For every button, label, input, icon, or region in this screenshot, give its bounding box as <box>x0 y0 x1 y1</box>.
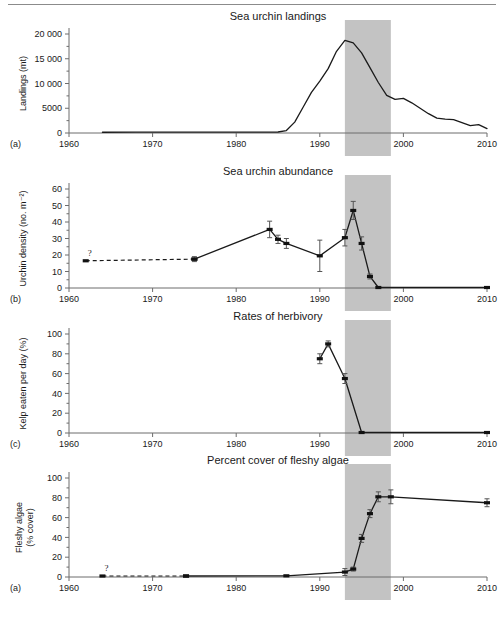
y-tick-label: 15 000 <box>34 54 62 64</box>
data-point-marker <box>359 242 365 245</box>
data-point-marker <box>99 574 105 577</box>
data-point-marker <box>183 574 189 577</box>
y-tick-label: 100 <box>47 329 62 339</box>
y-tick-label: 20 <box>52 552 62 562</box>
series-path-1 <box>186 497 487 576</box>
y-tick-label: 60 <box>52 513 62 523</box>
x-tick-label: 2000 <box>393 439 413 449</box>
chart-panel-3: Percent cover of fleshy algae02040608010… <box>0 452 504 600</box>
chart-svg-2: Rates of herbivory0204060801001960197019… <box>0 308 504 456</box>
series-path-1 <box>194 210 487 287</box>
chart-title: Sea urchin abundance <box>223 165 333 177</box>
panel-label: (c) <box>10 439 21 449</box>
data-point-marker <box>375 495 381 498</box>
x-tick-label: 1960 <box>59 439 79 449</box>
series-path-0 <box>102 40 487 132</box>
y-axis-title: Kelp eaten per day (%) <box>18 337 28 429</box>
chart-svg-1: Sea urchin abundance01020304050601960197… <box>0 163 504 311</box>
header-rule <box>8 4 496 5</box>
data-point-marker <box>191 258 197 261</box>
x-tick-label: 1980 <box>226 439 246 449</box>
data-point-marker <box>367 275 373 278</box>
x-tick-label: 1970 <box>143 139 163 149</box>
panel-label: (b) <box>10 294 21 304</box>
data-point-marker <box>275 238 281 241</box>
x-tick-label: 2010 <box>477 294 497 304</box>
chart-panel-1: Sea urchin abundance01020304050601960197… <box>0 163 504 311</box>
x-tick-label: 2010 <box>477 139 497 149</box>
x-tick-label: 2010 <box>477 583 497 593</box>
data-point-marker <box>342 236 348 239</box>
x-tick-label: 2000 <box>393 294 413 304</box>
y-axis-title: Landings (mt) <box>18 56 28 111</box>
x-tick-label: 2000 <box>393 583 413 593</box>
data-point-marker <box>367 512 373 515</box>
figure-page: Sea urchin landings0500010 00015 00020 0… <box>0 0 504 618</box>
x-tick-label: 2000 <box>393 139 413 149</box>
y-axis-title-line-1: (% cover) <box>25 508 35 547</box>
series-path-0 <box>86 259 195 261</box>
data-point-marker <box>283 574 289 577</box>
chart-title: Percent cover of fleshy algae <box>207 454 349 466</box>
y-tick-label: 10 000 <box>34 79 62 89</box>
x-tick-label: 1990 <box>310 294 330 304</box>
x-tick-label: 1980 <box>226 294 246 304</box>
shaded-period-band <box>345 464 391 600</box>
data-point-marker <box>283 242 289 245</box>
y-tick-label: 0 <box>57 128 62 138</box>
y-tick-label: 10 <box>52 267 62 277</box>
y-axis-title-line-0: Fleshy algae <box>14 502 24 553</box>
x-tick-label: 1960 <box>59 139 79 149</box>
y-tick-label: 40 <box>52 389 62 399</box>
y-tick-label: 5000 <box>42 103 62 113</box>
data-point-marker <box>484 431 490 434</box>
panel-label: (a) <box>10 583 21 593</box>
shaded-period-band <box>345 20 391 156</box>
y-tick-label: 30 <box>52 234 62 244</box>
y-tick-label: 20 000 <box>34 29 62 39</box>
x-tick-label: 2010 <box>477 439 497 449</box>
x-tick-label: 1990 <box>310 139 330 149</box>
y-axis-title: Urchin density (no. m⁻²) <box>18 190 28 286</box>
y-tick-label: 20 <box>52 250 62 260</box>
data-point-marker <box>350 567 356 570</box>
data-point-marker <box>267 228 273 231</box>
chart-svg-3: Percent cover of fleshy algae02040608010… <box>0 452 504 600</box>
y-tick-label: 0 <box>57 572 62 582</box>
y-tick-label: 40 <box>52 217 62 227</box>
chart-panel-2: Rates of herbivory0204060801001960197019… <box>0 308 504 456</box>
y-tick-label: 40 <box>52 533 62 543</box>
x-tick-label: 1970 <box>143 294 163 304</box>
uncertainty-question-mark: ? <box>104 563 108 573</box>
y-tick-label: 80 <box>52 493 62 503</box>
y-tick-label: 0 <box>57 283 62 293</box>
y-tick-label: 100 <box>47 473 62 483</box>
x-tick-label: 1980 <box>226 139 246 149</box>
x-tick-label: 1970 <box>143 439 163 449</box>
x-tick-label: 1960 <box>59 294 79 304</box>
y-tick-label: 20 <box>52 408 62 418</box>
data-point-marker <box>484 286 490 289</box>
data-point-marker <box>342 377 348 380</box>
y-tick-label: 60 <box>52 369 62 379</box>
data-point-marker <box>342 570 348 573</box>
chart-svg-0: Sea urchin landings0500010 00015 00020 0… <box>0 8 504 156</box>
shaded-period-band <box>345 175 391 311</box>
shaded-period-band <box>345 320 391 456</box>
data-point-marker <box>375 286 381 289</box>
x-tick-label: 1970 <box>143 583 163 593</box>
data-point-marker <box>83 259 89 262</box>
chart-panel-0: Sea urchin landings0500010 00015 00020 0… <box>0 8 504 156</box>
data-point-marker <box>388 495 394 498</box>
data-point-marker <box>350 209 356 212</box>
data-point-marker <box>317 357 323 360</box>
data-point-marker <box>325 342 331 345</box>
x-tick-label: 1980 <box>226 583 246 593</box>
data-point-marker <box>359 431 365 434</box>
data-point-marker <box>359 537 365 540</box>
panel-label: (a) <box>10 139 21 149</box>
y-tick-label: 50 <box>52 201 62 211</box>
y-tick-label: 0 <box>57 428 62 438</box>
chart-title: Rates of herbivory <box>233 310 323 322</box>
x-tick-label: 1960 <box>59 583 79 593</box>
